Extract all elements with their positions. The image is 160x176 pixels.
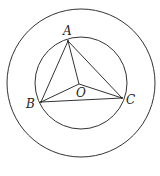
label-b: B bbox=[25, 97, 35, 111]
label-c: C bbox=[126, 93, 135, 107]
outer-circle bbox=[7, 9, 155, 157]
inner-circle bbox=[35, 37, 127, 129]
label-o: O bbox=[76, 86, 86, 100]
point-a-dot bbox=[67, 40, 69, 42]
label-a: A bbox=[62, 24, 72, 38]
segment-ob bbox=[41, 84, 79, 102]
segment-ab bbox=[41, 41, 68, 102]
geometry-figure: A B C O bbox=[0, 0, 160, 176]
point-b-dot bbox=[40, 101, 42, 103]
point-c-dot bbox=[121, 97, 123, 99]
